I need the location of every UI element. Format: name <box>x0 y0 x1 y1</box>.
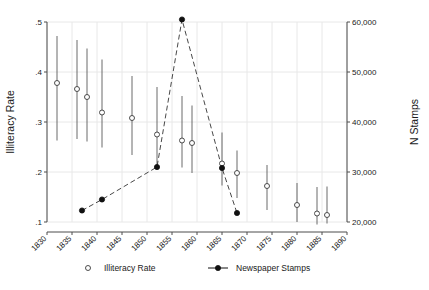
legend-label-illiteracy-rate: Illiteracy Rate <box>104 263 156 273</box>
x-axis-tick-label: 1860 <box>179 234 198 253</box>
y-axis-right-tick-label: 50,000 <box>352 68 377 77</box>
illiteracy-rate-point <box>85 95 90 100</box>
chart-svg: .1.2.3.4.5Illiteracy Rate20,00030,00040,… <box>0 0 429 290</box>
y-axis-right-tick-label: 60,000 <box>352 18 377 27</box>
newspaper-stamps-point <box>79 208 84 213</box>
chart-figure: .1.2.3.4.5Illiteracy Rate20,00030,00040,… <box>0 0 429 290</box>
newspaper-stamps-point <box>234 210 239 215</box>
x-axis-tick-label: 1875 <box>254 234 273 253</box>
x-axis-tick-label: 1830 <box>29 234 48 253</box>
y-axis-left-tick-label: .2 <box>35 168 42 177</box>
illiteracy-rate-point <box>155 132 160 137</box>
illiteracy-rate-point <box>75 87 80 92</box>
legend-label-newspaper-stamps: Newspaper Stamps <box>236 263 310 273</box>
x-axis-tick-label: 1845 <box>104 234 123 253</box>
legend-marker-illiteracy-rate <box>86 266 91 271</box>
y-axis-left-tick-label: .3 <box>35 118 42 127</box>
x-axis-tick-label: 1890 <box>329 234 348 253</box>
illiteracy-rate-point <box>235 171 240 176</box>
y-axis-right-title: N Stamps <box>408 99 420 145</box>
newspaper-stamps-line <box>82 20 237 214</box>
illiteracy-rate-point <box>180 138 185 143</box>
illiteracy-rate-point <box>190 141 195 146</box>
illiteracy-rate-point <box>55 81 60 86</box>
illiteracy-rate-point <box>315 211 320 216</box>
y-axis-right-tick-label: 40,000 <box>352 118 377 127</box>
x-axis-tick-label: 1835 <box>54 234 73 253</box>
y-axis-right-tick-label: 20,000 <box>352 218 377 227</box>
x-axis-tick-label: 1850 <box>129 234 148 253</box>
x-axis-tick-label: 1880 <box>279 234 298 253</box>
newspaper-stamps-point <box>99 197 104 202</box>
illiteracy-rate-point <box>265 184 270 189</box>
x-axis-tick-label: 1855 <box>154 234 173 253</box>
x-axis-tick-label: 1840 <box>79 234 98 253</box>
illiteracy-rate-point <box>325 213 330 218</box>
illiteracy-rate-point <box>295 203 300 208</box>
x-axis-tick-label: 1870 <box>229 234 248 253</box>
y-axis-left-tick-label: .5 <box>35 18 42 27</box>
legend-marker-newspaper-stamps <box>215 265 220 270</box>
y-axis-left-tick-label: .1 <box>35 218 42 227</box>
x-axis-tick-label: 1885 <box>304 234 323 253</box>
newspaper-stamps-point <box>179 17 184 22</box>
y-axis-left-tick-label: .4 <box>35 68 42 77</box>
newspaper-stamps-point <box>154 164 159 169</box>
y-axis-left-title: Illiteracy Rate <box>4 90 16 154</box>
illiteracy-rate-point <box>100 110 105 115</box>
x-axis-tick-label: 1865 <box>204 234 223 253</box>
illiteracy-rate-point <box>130 116 135 121</box>
y-axis-right-tick-label: 30,000 <box>352 168 377 177</box>
newspaper-stamps-point <box>219 165 224 170</box>
